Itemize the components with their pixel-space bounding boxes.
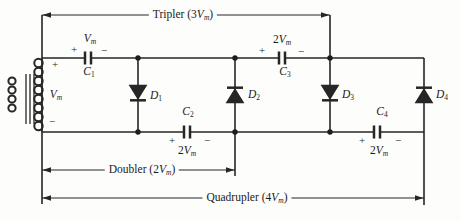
diode-D1-icon <box>130 86 146 101</box>
c1-value-label: Vm <box>84 33 96 46</box>
diode-D2-icon <box>227 88 243 103</box>
c4-name-label: C4 <box>376 106 387 119</box>
tripler-label: Tripler (3Vm) <box>149 9 217 22</box>
arrow-right-icon <box>415 195 424 200</box>
transformer-primary-coil <box>8 77 15 111</box>
c4-value-label: 2Vm <box>370 145 388 158</box>
arrow-left-icon <box>43 195 52 200</box>
doubler-label-text: Doubler (2 <box>109 163 159 175</box>
diode-D3-icon <box>322 86 338 101</box>
tripler-label-text: Tripler (3 <box>153 8 197 20</box>
c1-plus-sign: + <box>71 44 77 55</box>
source-minus-sign: − <box>49 116 55 127</box>
circuit-diagram: Tripler (3Vm) Doubler (2Vm) Quadrupler (… <box>0 0 460 221</box>
arrow-right-icon <box>226 167 235 172</box>
arrow-right-icon <box>321 12 330 17</box>
c4-minus-sign: − <box>395 135 401 146</box>
quadrupler-label-text: Quadrupler (4 <box>206 191 271 203</box>
doubler-label: Doubler (2Vm) <box>105 164 179 177</box>
capacitor-C4-icon <box>374 126 380 139</box>
source-plus-sign: + <box>52 59 58 70</box>
capacitor-C1-icon <box>85 52 91 65</box>
c2-plus-sign: + <box>169 135 175 146</box>
quadrupler-label: Quadrupler (4Vm) <box>202 192 291 205</box>
transformer-secondary-coil <box>34 58 42 132</box>
d4-label: D4 <box>436 89 448 102</box>
transformer-core <box>26 74 34 124</box>
d1-label: D1 <box>150 90 162 103</box>
c2-name-label: C2 <box>182 106 193 119</box>
circuit-graphics <box>0 0 460 221</box>
arrow-left-icon <box>43 167 52 172</box>
d2-label: D2 <box>248 89 260 102</box>
diode-D4-icon <box>416 88 432 103</box>
c4-plus-sign: + <box>359 135 365 146</box>
source-vm-label: Vm <box>50 89 62 102</box>
c3-name-label: C3 <box>279 66 290 79</box>
capacitor-C2-icon <box>184 126 190 139</box>
capacitor-C3-icon <box>279 52 285 65</box>
c3-minus-sign: − <box>298 46 304 57</box>
c2-value-label: 2Vm <box>178 145 196 158</box>
c2-minus-sign: − <box>204 135 210 146</box>
c3-plus-sign: + <box>259 45 265 56</box>
c1-minus-sign: − <box>101 45 107 56</box>
d3-label: D3 <box>342 89 354 102</box>
transformer <box>8 58 42 132</box>
c1-name-label: C1 <box>83 66 94 79</box>
c3-value-label: 2Vm <box>273 34 291 47</box>
arrow-left-icon <box>43 12 52 17</box>
